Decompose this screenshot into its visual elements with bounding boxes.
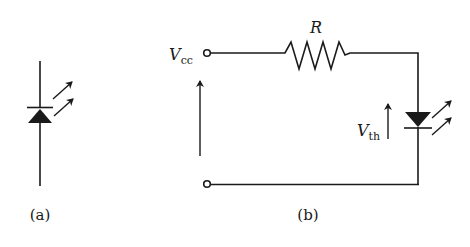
- terminal-top: [204, 50, 211, 57]
- circuit-figure: (a) Vcc R Vth (b): [0, 0, 470, 247]
- supply-voltage-label: Vcc: [169, 45, 193, 67]
- panel-a-caption: (a): [30, 206, 51, 224]
- resistor-zigzag-icon: [211, 42, 419, 112]
- panel-b: Vcc R Vth (b): [169, 18, 451, 224]
- circuit-emission-arrows-icon: [432, 101, 451, 135]
- terminal-bottom: [204, 181, 211, 188]
- panel-a: (a): [27, 61, 73, 224]
- threshold-voltage-label: Vth: [357, 121, 380, 143]
- resistor-label: R: [309, 18, 322, 37]
- panel-b-caption: (b): [297, 206, 318, 224]
- led-triangle-icon: [28, 109, 52, 123]
- light-emission-arrows-icon: [53, 82, 73, 116]
- circuit-led-triangle-icon: [405, 112, 431, 127]
